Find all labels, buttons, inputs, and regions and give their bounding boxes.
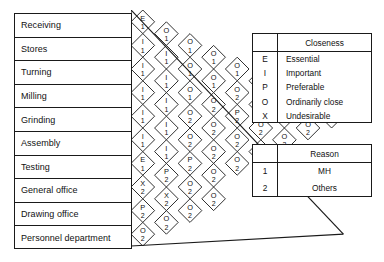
closeness-code: O — [187, 61, 193, 70]
relationship-cell[interactable]: O2 — [178, 104, 202, 128]
relationship-cell[interactable]: O1 — [178, 34, 202, 58]
relationship-cell[interactable]: O1 — [225, 57, 249, 81]
closeness-code: O — [234, 155, 240, 164]
relationship-cell[interactable]: O2 — [155, 211, 179, 235]
activity-row[interactable]: Stores — [15, 38, 131, 62]
reason-code: 1 — [164, 153, 168, 160]
closeness-code: O — [211, 191, 217, 200]
relationship-cell[interactable]: I1 — [131, 128, 155, 152]
activity-row[interactable]: Turning — [15, 61, 131, 85]
reason-code: 1 — [164, 129, 168, 136]
relationship-cell[interactable]: O1 — [202, 45, 226, 69]
closeness-code-key: I — [253, 66, 278, 80]
relationship-cell[interactable]: O1 — [178, 57, 202, 81]
closeness-legend-header-title: Closeness — [278, 34, 372, 52]
reason-legend-body: 1MH2Others — [253, 163, 371, 198]
closeness-code: I — [142, 37, 144, 46]
relationship-cell[interactable]: O2 — [178, 175, 202, 199]
activity-label-list: ReceivingStoresTurningMillingGrindingAss… — [14, 13, 132, 249]
relationship-cell[interactable]: X2 — [155, 187, 179, 211]
closeness-code: I — [165, 120, 167, 129]
relationship-cell[interactable]: I1 — [155, 116, 179, 140]
reason-code: 1 — [188, 47, 192, 54]
relationship-cell[interactable]: E1 — [131, 152, 155, 176]
relationship-cell[interactable]: I1 — [155, 140, 179, 164]
closeness-code-key: E — [253, 52, 278, 67]
closeness-code: O — [211, 144, 217, 153]
closeness-code: O — [211, 49, 217, 58]
reason-code: 1 — [164, 35, 168, 42]
legend-row: EEssential — [253, 52, 371, 67]
closeness-code-meaning: Preferable — [278, 80, 372, 94]
relationship-cell[interactable]: O2 — [225, 152, 249, 176]
reason-code: 2 — [164, 176, 168, 183]
closeness-code-meaning: Ordinarily close — [278, 95, 372, 109]
activity-row[interactable]: General office — [15, 179, 131, 203]
relationship-cell[interactable]: I1 — [155, 69, 179, 93]
activity-row[interactable]: Grinding — [15, 108, 131, 132]
relationship-cell[interactable]: O2 — [202, 93, 226, 117]
relationship-cell[interactable]: O2 — [202, 187, 226, 211]
reason-code-meaning: MH — [278, 163, 372, 181]
relationship-cell[interactable]: P2 — [131, 199, 155, 223]
closeness-code: I — [165, 49, 167, 58]
reason-code: 2 — [235, 141, 239, 148]
closeness-code: O — [164, 26, 170, 35]
relationship-cell[interactable]: P2 — [225, 104, 249, 128]
reason-code: 1 — [212, 58, 216, 65]
relationship-cell[interactable]: X2 — [131, 175, 155, 199]
reason-code: 2 — [306, 129, 310, 136]
relationship-cell[interactable]: O1 — [155, 22, 179, 46]
reason-code: 2 — [141, 188, 145, 195]
reason-code: 2 — [141, 235, 145, 242]
reason-code: 1 — [141, 47, 145, 54]
closeness-code: O — [282, 132, 288, 141]
activity-row[interactable]: Drawing office — [15, 203, 131, 227]
legend-row: 1MH — [253, 163, 371, 181]
reason-code: 2 — [188, 165, 192, 172]
relationship-cell[interactable]: I1 — [155, 93, 179, 117]
activity-row[interactable]: Testing — [15, 156, 131, 180]
relationship-cell[interactable]: I1 — [131, 57, 155, 81]
relationship-cell[interactable]: P2 — [155, 163, 179, 187]
activity-label: Milling — [21, 91, 47, 101]
closeness-legend-header-key — [253, 34, 278, 52]
activity-row[interactable]: Milling — [15, 85, 131, 109]
relationship-cell[interactable]: I1 — [131, 81, 155, 105]
activity-label: General office — [21, 185, 78, 195]
activity-row[interactable]: Personnel department — [15, 226, 131, 250]
relationship-cell[interactable]: I1 — [131, 34, 155, 58]
activity-row[interactable]: Assembly — [15, 132, 131, 156]
reason-code: 2 — [212, 129, 216, 136]
closeness-code: P — [188, 155, 193, 164]
closeness-code: O — [211, 120, 217, 129]
closeness-code-meaning: Essential — [278, 52, 372, 67]
activity-label: Turning — [21, 67, 52, 77]
relationship-cell[interactable]: P2 — [178, 152, 202, 176]
activity-row[interactable]: Receiving — [15, 14, 131, 38]
relationship-cell[interactable]: O2 — [202, 116, 226, 140]
relationship-cell[interactable]: O2 — [202, 163, 226, 187]
closeness-legend: Closeness EEssentialIImportantPPreferabl… — [252, 33, 372, 123]
relationship-cell[interactable]: O2 — [178, 128, 202, 152]
activity-label: Testing — [21, 162, 50, 172]
activity-label: Assembly — [21, 138, 60, 148]
relationship-cell[interactable]: I1 — [131, 104, 155, 128]
closeness-code: I — [142, 61, 144, 70]
reason-code: 2 — [164, 224, 168, 231]
reason-legend-header-key — [253, 145, 278, 163]
relationship-cell[interactable]: O1 — [178, 81, 202, 105]
reason-code: 1 — [141, 165, 145, 172]
closeness-code: E — [140, 155, 145, 164]
activity-label: Grinding — [21, 115, 55, 125]
relationship-cell[interactable]: O2 — [202, 140, 226, 164]
relationship-cell[interactable]: O2 — [178, 199, 202, 223]
relationship-cell[interactable]: O2 — [225, 81, 249, 105]
reason-code: 2 — [188, 117, 192, 124]
relationship-cell[interactable]: O2 — [131, 222, 155, 246]
reason-code: 2 — [188, 141, 192, 148]
reason-code: 1 — [235, 70, 239, 77]
relationship-cell[interactable]: I1 — [155, 45, 179, 69]
closeness-code: O — [187, 37, 193, 46]
closeness-code: O — [140, 226, 146, 235]
